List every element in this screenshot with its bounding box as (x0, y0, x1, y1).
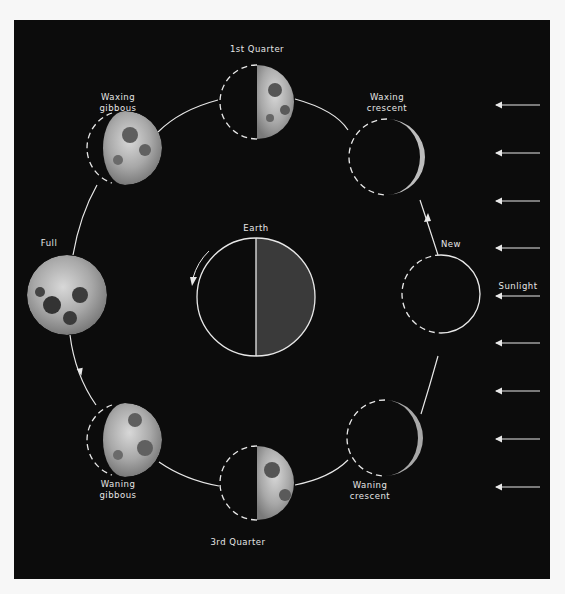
phase-label-waxing-crescent-2: crescent (367, 103, 407, 113)
sunlight-arrows (496, 105, 540, 487)
phase-label-waning-crescent-1: Waning (353, 480, 388, 490)
moon-first-quarter: 1st Quarter (220, 44, 297, 142)
moon-waxing-gibbous: Waxing gibbous (87, 92, 162, 185)
moon-full: Full (27, 238, 107, 335)
moon-third-quarter: 3rd Quarter (210, 443, 297, 547)
moon-new: New (402, 239, 480, 333)
sunlight-label: Sunlight (498, 281, 537, 291)
moon-phases-diagram: Earth New Waxing crescent 1st Quarter (0, 0, 565, 594)
phase-label-full: Full (41, 238, 58, 248)
phase-label-waning-crescent-2: crescent (350, 491, 390, 501)
phase-label-waning-gibbous-2: gibbous (99, 490, 136, 500)
phase-label-waning-gibbous-1: Waning (101, 479, 136, 489)
phase-label-waxing-gibbous-2: gibbous (99, 103, 136, 113)
phase-label-waxing-gibbous-1: Waxing (101, 92, 135, 102)
earth-label: Earth (243, 223, 268, 233)
phase-label-new: New (441, 239, 461, 249)
earth: Earth (190, 223, 315, 356)
phase-label-first-quarter: 1st Quarter (230, 44, 284, 54)
moon-waxing-crescent: Waxing crescent (349, 92, 425, 195)
moon-waning-gibbous: Waning gibbous (87, 403, 162, 500)
phase-label-third-quarter: 3rd Quarter (210, 537, 265, 547)
moon-waning-crescent: Waning crescent (347, 400, 423, 501)
phase-label-waxing-crescent-1: Waxing (370, 92, 404, 102)
